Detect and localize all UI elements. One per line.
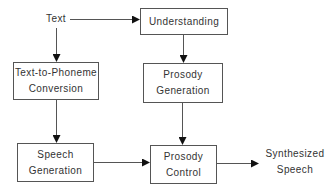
- understanding-box: Understanding: [140, 8, 228, 35]
- text-to-phoneme-box: Text-to-Phoneme Conversion: [13, 62, 99, 100]
- speech-generation-label-1: Speech: [37, 147, 73, 163]
- prosody-control-label-1: Prosody: [164, 149, 204, 165]
- text-input-label: Text: [38, 11, 74, 27]
- synthesized-speech-label-1: Synthesized: [266, 146, 325, 162]
- synthesized-speech-label-2: Speech: [277, 162, 313, 178]
- text-to-phoneme-label-1: Text-to-Phoneme: [15, 65, 97, 81]
- speech-generation-box: Speech Generation: [17, 143, 94, 182]
- prosody-control-box: Prosody Control: [150, 145, 217, 184]
- prosody-generation-label-1: Prosody: [163, 67, 203, 83]
- understanding-label: Understanding: [149, 14, 219, 30]
- prosody-generation-box: Prosody Generation: [143, 63, 223, 103]
- synthesized-speech-label: Synthesized Speech: [262, 146, 328, 178]
- prosody-generation-label-2: Generation: [156, 83, 209, 99]
- speech-generation-label-2: Generation: [29, 163, 82, 179]
- prosody-control-label-2: Control: [166, 165, 201, 181]
- tts-flow-diagram: Text Understanding Text-to-Phoneme Conve…: [0, 0, 332, 191]
- text-input-label-line: Text: [46, 13, 66, 24]
- text-to-phoneme-label-2: Conversion: [29, 81, 84, 97]
